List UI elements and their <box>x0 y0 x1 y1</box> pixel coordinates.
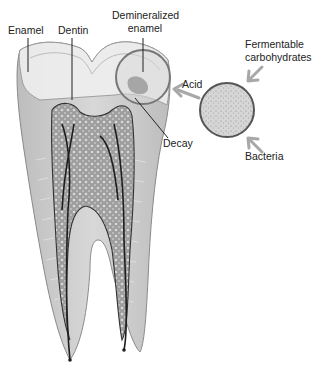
tooth-decay-diagram: Enamel Dentin Demineralized enamel Decay… <box>0 0 323 368</box>
label-demineralized-line2: enamel <box>112 22 178 35</box>
label-acid: Acid <box>182 78 202 91</box>
label-demineralized-line1: Demineralized <box>112 9 178 22</box>
label-enamel: Enamel <box>8 24 44 37</box>
bacteria-circle <box>200 83 254 137</box>
label-dentin: Dentin <box>58 24 88 37</box>
label-bacteria: Bacteria <box>245 150 284 163</box>
label-fermentable-line2: carbohydrates <box>245 51 312 64</box>
label-fermentable-line1: Fermentable <box>245 38 304 51</box>
label-decay: Decay <box>163 137 193 150</box>
